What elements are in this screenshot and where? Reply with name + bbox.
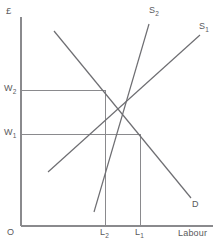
wage-high-tick-label: W2 xyxy=(4,84,17,95)
wage-low-tick-label: W1 xyxy=(4,128,17,139)
labour-low-tick-subscript: 2 xyxy=(105,232,109,239)
diagram-canvas xyxy=(0,0,214,243)
x-axis-label: Labour xyxy=(178,229,207,238)
supply-curve-s2 xyxy=(94,24,149,212)
supply-curve-s1-label: S1 xyxy=(199,22,209,33)
supply-curve-s2-label: S2 xyxy=(149,6,159,17)
labour-market-diagram: £ O Labour W2 W1 L2 L1 S2 S1 D xyxy=(0,0,214,243)
supply-curve-s2-label-subscript: 2 xyxy=(155,10,159,17)
labour-low-tick-label: L2 xyxy=(100,228,109,239)
origin-label: O xyxy=(7,228,14,237)
wage-high-tick-subscript: 2 xyxy=(13,88,17,95)
wage-high-tick-letter: W xyxy=(4,83,13,93)
y-axis-label: £ xyxy=(6,6,11,16)
labour-high-tick-subscript: 1 xyxy=(140,232,144,239)
supply-curve-s1-label-subscript: 1 xyxy=(205,26,209,33)
supply-curve-s1 xyxy=(48,35,200,172)
wage-low-tick-subscript: 1 xyxy=(13,132,17,139)
demand-curve-label: D xyxy=(192,200,199,209)
wage-low-tick-letter: W xyxy=(4,127,13,137)
labour-high-tick-label: L1 xyxy=(135,228,144,239)
